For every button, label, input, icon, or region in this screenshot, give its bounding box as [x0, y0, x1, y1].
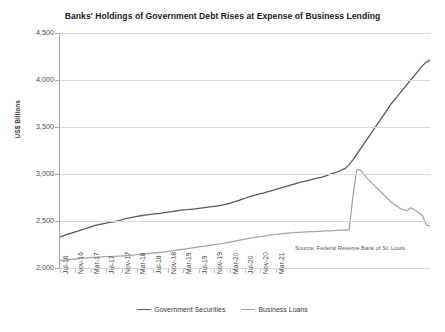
legend-item[interactable]: Business Loans	[241, 306, 307, 313]
y-tick-mark	[55, 80, 60, 81]
x-tick-label: Mar-21	[279, 252, 286, 274]
x-tick-mark	[137, 269, 138, 273]
x-tick-mark	[260, 269, 261, 273]
x-tick-mark	[153, 269, 154, 273]
x-tick-mark	[199, 269, 200, 273]
x-tick-mark	[122, 269, 123, 273]
x-tick-label: Jul-20	[248, 255, 255, 274]
x-tick-label: Jul-17	[109, 255, 116, 274]
x-tick-label: Mar-17	[94, 252, 101, 274]
x-tick-mark	[168, 269, 169, 273]
x-tick-label: Nov-19	[217, 252, 224, 274]
x-tick-label: Jul-19	[202, 255, 209, 274]
x-tick-mark	[245, 269, 246, 273]
legend-label: Government Securities	[154, 306, 225, 313]
chart-legend: Government SecuritiesBusiness Loans	[0, 306, 445, 313]
x-tick-label: Mar-18	[140, 252, 147, 274]
x-tick-label: Nov-20	[263, 252, 270, 274]
x-tick-label: Nov-17	[125, 252, 132, 274]
y-tick-mark	[55, 174, 60, 175]
x-tick-mark	[91, 269, 92, 273]
y-tick-mark	[55, 33, 60, 34]
x-tick-label: Mar-20	[233, 252, 240, 274]
legend-swatch-icon	[137, 309, 151, 311]
x-axis-tick-labels: Jul-16Nov-16Mar-17Jul-17Nov-17Mar-18Jul-…	[0, 0, 445, 332]
source-note: Source: Federal Reserve Bank of St. Loui…	[295, 245, 405, 251]
x-tick-mark	[183, 269, 184, 273]
x-tick-mark	[106, 269, 107, 273]
x-tick-mark	[75, 269, 76, 273]
x-tick-label: Nov-16	[78, 252, 85, 274]
x-tick-label: Jul-16	[63, 255, 70, 274]
x-tick-mark	[276, 269, 277, 273]
x-tick-mark	[60, 269, 61, 273]
x-tick-mark	[214, 269, 215, 273]
x-tick-label: Nov-18	[171, 252, 178, 274]
x-tick-label: Mar-19	[186, 252, 193, 274]
y-tick-mark	[55, 221, 60, 222]
legend-label: Business Loans	[258, 306, 307, 313]
y-tick-mark	[55, 127, 60, 128]
y-tick-mark	[55, 268, 60, 269]
legend-item[interactable]: Government Securities	[137, 306, 225, 313]
legend-swatch-icon	[241, 309, 255, 311]
x-tick-label: Jul-18	[156, 255, 163, 274]
chart-container: Banks' Holdings of Government Debt Rises…	[0, 0, 445, 332]
x-tick-mark	[230, 269, 231, 273]
